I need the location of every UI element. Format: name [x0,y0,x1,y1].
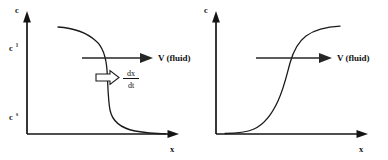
dxdt-numerator: dx [127,69,135,78]
y-tick-c-liquid-base: c [9,43,13,53]
y-tick-label-c-liquid: c l [9,42,18,54]
dxdt-denominator: dt [128,81,135,90]
y-axis-right [212,11,220,134]
velocity-label-left: V (fluid) [158,53,191,63]
velocity-arrowhead-icon [319,53,332,63]
velocity-arrow-left [82,53,153,63]
figure-root: c x c l c s V (fluid) dx dt [0,0,388,160]
x-axis-label-left: x [170,144,175,154]
y-tick-c-solid-base: c [9,112,13,122]
x-axis-label-right: x [359,144,364,154]
y-axis-arrowhead-icon [23,11,31,23]
y-tick-c-solid-superscript: s [16,111,19,117]
panel-sharp-interface-profile: c x c l c s V (fluid) dx dt [0,0,194,160]
y-tick-label-c-solid: c s [9,111,19,123]
panel-diffuse-interface-profile: c x V (fluid) [194,0,388,160]
y-axis-left [23,11,31,134]
y-axis-label-left: c [15,5,19,15]
velocity-label-right: V (fluid) [337,53,370,63]
dxdt-fraction-label: dx dt [123,69,139,90]
y-axis-arrowhead-icon [212,11,220,23]
concentration-curve-right [225,26,340,133]
velocity-arrow-right [256,53,332,63]
velocity-arrowhead-icon [140,53,153,63]
x-axis-arrowhead-icon [357,130,369,138]
y-axis-label-right: c [204,5,208,15]
x-axis-right [216,130,368,138]
y-tick-c-liquid-superscript: l [16,42,18,48]
x-axis-arrowhead-icon [168,130,180,138]
